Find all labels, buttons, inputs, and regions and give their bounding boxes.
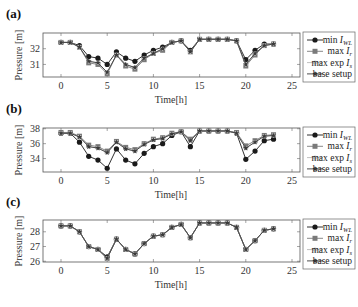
legend-label: max exp Is bbox=[311, 153, 352, 164]
legend-marker-icon bbox=[312, 224, 317, 229]
y-tick-label: 36 bbox=[30, 138, 40, 149]
series-line bbox=[61, 223, 274, 258]
series-min-i_wl bbox=[58, 128, 276, 170]
x-tick-label: 0 bbox=[59, 175, 64, 186]
x-tick-label: 0 bbox=[59, 265, 64, 276]
data-point bbox=[262, 138, 267, 143]
data-point bbox=[95, 157, 100, 162]
x-tick-label: 20 bbox=[241, 175, 251, 186]
series-base-setup bbox=[58, 220, 276, 260]
legend-label: base setup bbox=[313, 69, 353, 79]
x-axis-title: Time[h] bbox=[155, 94, 187, 105]
y-tick-label: 31 bbox=[30, 59, 40, 70]
x-tick-label: 15 bbox=[195, 265, 205, 276]
y-tick-label: 27 bbox=[30, 241, 40, 252]
chart-panel-b: (b)3436380510152025Time[h]Pressure [m]mi… bbox=[6, 101, 355, 200]
plot-frame bbox=[43, 33, 300, 77]
data-point bbox=[132, 59, 137, 64]
x-tick-label: 20 bbox=[241, 265, 251, 276]
legend-label: max Ir bbox=[328, 141, 353, 152]
panel-label: (a) bbox=[6, 6, 21, 21]
x-tick-label: 10 bbox=[148, 175, 158, 186]
data-point bbox=[123, 157, 128, 162]
legend-label: max Ir bbox=[328, 233, 353, 244]
data-point bbox=[77, 140, 82, 145]
data-point bbox=[243, 157, 248, 162]
x-tick-label: 5 bbox=[105, 80, 110, 91]
data-point bbox=[188, 144, 193, 149]
data-point bbox=[160, 141, 165, 146]
panel-label: (c) bbox=[6, 194, 20, 209]
legend-marker-icon bbox=[313, 236, 318, 241]
x-tick-label: 20 bbox=[241, 80, 251, 91]
data-point bbox=[132, 161, 137, 166]
data-point bbox=[142, 151, 147, 156]
x-tick-label: 25 bbox=[287, 175, 297, 186]
data-point bbox=[252, 149, 257, 154]
y-axis-title: Pressure [m] bbox=[13, 125, 24, 176]
legend: min IWLmax Irmax exp Isbase setup bbox=[303, 219, 355, 269]
data-point bbox=[86, 154, 91, 159]
series-max-exp-i_s bbox=[59, 37, 276, 74]
y-tick-label: 32 bbox=[30, 43, 40, 54]
series-max-exp-i_s bbox=[59, 221, 276, 261]
x-tick-label: 15 bbox=[195, 80, 205, 91]
legend-label: base setup bbox=[313, 164, 353, 174]
data-point bbox=[114, 146, 119, 151]
x-tick-label: 5 bbox=[105, 265, 110, 276]
chart-panel-a: (a)31320510152025Time[h]Pressure [m]min … bbox=[6, 6, 355, 105]
x-tick-label: 5 bbox=[105, 175, 110, 186]
x-tick-label: 15 bbox=[195, 175, 205, 186]
series-max-i_r bbox=[59, 220, 277, 260]
figure-canvas: (a)31320510152025Time[h]Pressure [m]min … bbox=[0, 0, 358, 307]
legend-marker-icon bbox=[312, 37, 317, 42]
series-base-setup bbox=[58, 128, 276, 155]
legend-marker-icon bbox=[313, 144, 318, 149]
panel-label: (b) bbox=[6, 101, 22, 116]
data-point bbox=[123, 56, 128, 61]
data-point bbox=[105, 62, 110, 67]
x-axis-title: Time[h] bbox=[155, 279, 187, 290]
y-tick-label: 34 bbox=[30, 153, 40, 164]
series-max-i_r bbox=[59, 128, 277, 153]
y-tick-label: 26 bbox=[30, 256, 40, 267]
series-min-i_wl bbox=[58, 220, 276, 259]
x-tick-label: 25 bbox=[287, 80, 297, 91]
data-point bbox=[151, 144, 156, 149]
legend-label: max exp Is bbox=[311, 58, 352, 69]
y-axis-title: Pressure [m] bbox=[13, 30, 24, 81]
x-axis-title: Time[h] bbox=[155, 189, 187, 200]
y-tick-label: 28 bbox=[30, 226, 40, 237]
legend-marker-icon bbox=[312, 132, 317, 137]
series-line bbox=[61, 131, 274, 153]
series-line bbox=[61, 39, 274, 64]
x-tick-label: 10 bbox=[148, 265, 158, 276]
x-tick-label: 10 bbox=[148, 80, 158, 91]
legend-label: max exp Is bbox=[311, 245, 352, 256]
legend-label: base setup bbox=[313, 256, 353, 266]
x-tick-label: 0 bbox=[59, 80, 64, 91]
legend: min IWLmax Irmax exp Isbase setup bbox=[303, 127, 355, 177]
y-tick-label: 38 bbox=[30, 123, 40, 134]
chart-panel-c: (c)2627280510152025Time[h]Pressure [m]mi… bbox=[6, 194, 355, 290]
x-tick-label: 25 bbox=[287, 265, 297, 276]
y-axis-title: Pressure [m] bbox=[13, 216, 24, 267]
data-point bbox=[105, 166, 110, 171]
legend-marker-icon bbox=[313, 49, 318, 54]
data-point bbox=[95, 56, 100, 61]
legend-label: max Ir bbox=[328, 46, 353, 57]
legend: min IWLmax Irmax exp Isbase setup bbox=[303, 32, 355, 82]
